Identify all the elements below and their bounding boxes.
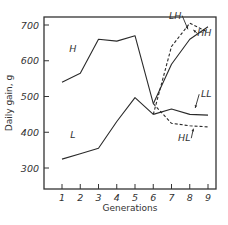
label-ll: LL bbox=[201, 88, 212, 99]
x-tick-label: 4 bbox=[114, 192, 120, 203]
label-lh: LH bbox=[169, 10, 181, 21]
y-tick-label: 600 bbox=[21, 55, 39, 66]
y-tick-label: 300 bbox=[21, 163, 39, 174]
x-tick-label: 8 bbox=[187, 192, 193, 203]
y-axis-title: Daily gain, g bbox=[4, 75, 14, 132]
x-axis: 123456789 bbox=[59, 184, 211, 203]
label-hh: HH bbox=[197, 27, 211, 38]
x-axis-title: Generations bbox=[103, 203, 158, 213]
y-tick-label: 400 bbox=[21, 127, 39, 138]
label-l: L bbox=[70, 129, 75, 140]
y-tick-label: 500 bbox=[21, 91, 39, 102]
y-tick-label: 700 bbox=[21, 20, 39, 31]
x-tick-label: 9 bbox=[205, 192, 211, 203]
x-tick-label: 3 bbox=[95, 192, 101, 203]
label-h: H bbox=[69, 43, 76, 54]
x-tick-label: 1 bbox=[59, 192, 65, 203]
series-labels: HLLHHHLLHL bbox=[69, 10, 211, 144]
series-l-line bbox=[62, 98, 153, 160]
x-tick-label: 5 bbox=[132, 192, 138, 203]
chart: 300400500600700 123456789 HLLHHHLLHL Gen… bbox=[0, 0, 228, 225]
x-tick-label: 2 bbox=[77, 192, 83, 203]
x-tick-label: 6 bbox=[150, 192, 156, 203]
y-axis: 300400500600700 bbox=[21, 20, 49, 174]
label-hl: HL bbox=[178, 132, 190, 143]
x-tick-label: 7 bbox=[168, 192, 174, 203]
